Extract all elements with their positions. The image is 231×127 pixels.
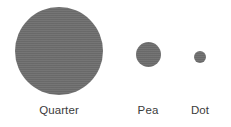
figure-canvas: Quarter Pea Dot	[0, 0, 231, 127]
size-comparison-figure: Quarter Pea Dot	[0, 0, 231, 127]
quarter-label: Quarter	[14, 103, 104, 117]
quarter-circle-swatch	[15, 7, 103, 95]
pea-label: Pea	[123, 103, 173, 117]
dot-label: Dot	[176, 103, 224, 117]
dot-circle-swatch	[194, 51, 206, 63]
pea-circle-swatch	[136, 42, 161, 67]
